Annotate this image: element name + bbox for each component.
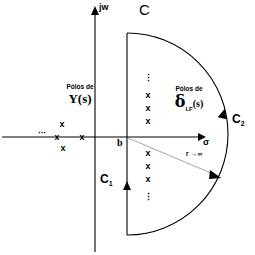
real-axis-label: σ — [203, 138, 209, 147]
pole-group-y-caption: Pólos de Y(s) — [52, 84, 108, 105]
contour-c2-letter: C — [232, 112, 241, 126]
pole-mark-right: x — [145, 162, 150, 171]
real-axis — [2, 133, 206, 141]
contour-c1-label: C1 — [100, 173, 113, 187]
delta-argument: (s) — [193, 98, 204, 109]
abscissa-b-label: b — [117, 138, 123, 148]
pole-vdots-right-top: ⋮ — [144, 74, 153, 83]
contour-c1-letter: C — [100, 172, 109, 186]
pole-mark-left: x — [60, 144, 65, 153]
contour-c1-subscript: 1 — [109, 180, 113, 187]
pole-group-y-caption-main: Y(s) — [52, 92, 108, 105]
imaginary-axis-label: jw — [99, 3, 109, 12]
pole-group-delta-caption: Pólos de δLF(s) — [158, 86, 220, 111]
pole-group-delta-caption-top: Pólos de — [158, 86, 220, 93]
pole-group-delta-caption-main: δLF(s) — [158, 94, 220, 112]
contour-c2-label: C2 — [232, 113, 245, 127]
pole-mark-right: x — [145, 149, 150, 158]
pole-mark-right: x — [145, 104, 150, 113]
pole-mark-left: x — [79, 133, 84, 142]
contour-c2-subscript: 2 — [241, 120, 245, 127]
contour-diagram-figure: jw σ b C C1 C2 r →∞ Pólos de Y(s) Pólos … — [0, 0, 255, 255]
pole-mark-left: x — [54, 133, 59, 142]
imaginary-axis — [91, 6, 99, 252]
radius-annotation-label: r →∞ — [186, 151, 202, 158]
contour-c-label: C — [139, 2, 150, 17]
pole-mark-right: x — [145, 175, 150, 184]
delta-symbol: δ — [175, 92, 186, 111]
pole-mark-left: x — [59, 120, 64, 129]
pole-vdots-right-bottom: ⋮ — [144, 193, 153, 202]
pole-ellipsis-left: ⋯ — [38, 129, 46, 137]
contour-c1-segment — [123, 33, 131, 235]
pole-mark-right: x — [145, 91, 150, 100]
contour-c2-arc — [127, 33, 229, 235]
pole-mark-right: x — [145, 117, 150, 126]
delta-subscript: LF — [185, 105, 192, 111]
pole-group-y-caption-top: Pólos de — [52, 84, 108, 91]
